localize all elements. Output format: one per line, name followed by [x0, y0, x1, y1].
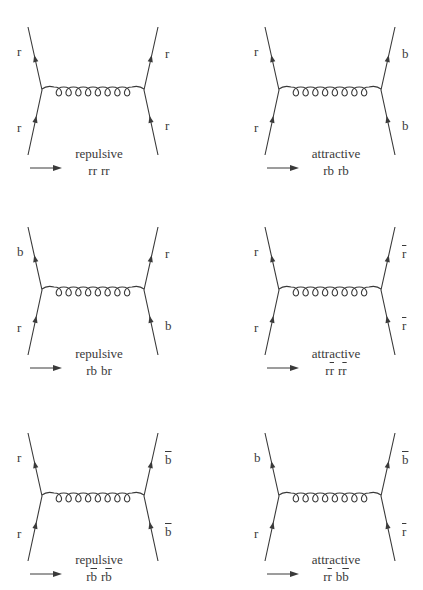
- feynman-diagram-p2: r r b b attractive rb rb: [251, 27, 423, 202]
- reaction-rhs: rb: [338, 164, 349, 178]
- reaction-equation: rr bb: [266, 570, 406, 584]
- right-quark-line: [144, 433, 158, 561]
- interaction-type: repulsive: [29, 347, 169, 361]
- label-bottom-left: r: [17, 527, 21, 540]
- reaction-arrow-icon: [29, 570, 63, 578]
- reaction-equation: rr rr: [29, 164, 169, 178]
- color-charge: r: [105, 163, 109, 178]
- reaction-arrow-icon: [29, 164, 63, 172]
- reaction-lhs: rb: [86, 364, 97, 378]
- feynman-diagram-p6: b r b r attractive rr bb: [251, 433, 423, 590]
- right-quark-line: [381, 433, 395, 561]
- right-quark-line: [381, 227, 395, 355]
- reaction-lhs: rr: [88, 164, 97, 178]
- label-bottom-right: b: [165, 525, 172, 538]
- label-top-left: r: [17, 451, 21, 464]
- label-top-right: b: [165, 453, 172, 466]
- left-quark-line: [265, 433, 279, 561]
- label-top-right: r: [165, 247, 169, 260]
- gluon-line: [279, 86, 381, 96]
- reaction-lhs: rr: [325, 364, 334, 378]
- arrowheads: [32, 55, 153, 123]
- reaction-arrow-icon: [266, 364, 300, 372]
- reaction-arrow-icon: [266, 570, 300, 578]
- left-quark-line: [265, 27, 279, 155]
- arrowheads: [269, 255, 390, 323]
- color-charge: b: [342, 163, 349, 178]
- reaction-lhs: rr: [323, 570, 332, 584]
- feynman-diagram-p5: r r b b repulsive rb rb: [14, 433, 214, 590]
- reaction-equation: rb br: [29, 364, 169, 378]
- label-top-left: b: [17, 245, 24, 258]
- reaction-rhs: rr: [338, 364, 347, 378]
- interaction-type: attractive: [266, 147, 406, 161]
- label-top-right: r: [165, 47, 169, 60]
- label-bottom-left: r: [17, 121, 21, 134]
- right-quark-line: [381, 27, 395, 155]
- reaction-rhs: br: [101, 364, 112, 378]
- label-bottom-right: b: [402, 119, 409, 132]
- arrowheads: [269, 55, 390, 123]
- gluon-line: [279, 286, 381, 296]
- label-top-right: b: [402, 453, 409, 466]
- left-quark-line: [28, 433, 42, 561]
- label-bottom-left: r: [254, 527, 258, 540]
- reaction-lhs: rb: [323, 164, 334, 178]
- reaction-equation: rb rb: [29, 570, 169, 584]
- reaction-rhs: rr: [101, 164, 110, 178]
- arrowheads: [32, 255, 153, 323]
- label-bottom-right: r: [165, 119, 169, 132]
- left-quark-line: [28, 227, 42, 355]
- color-charge: b: [91, 363, 98, 378]
- color-charge: b: [105, 569, 112, 584]
- interaction-type: attractive: [266, 347, 406, 361]
- color-charge: r: [93, 163, 97, 178]
- reaction-equation: rb rb: [266, 164, 406, 178]
- gluon-line: [42, 86, 144, 96]
- feynman-diagram-p1: r r r r repulsive rr rr: [14, 27, 214, 202]
- arrowheads: [32, 461, 153, 529]
- gluon-line: [279, 492, 381, 502]
- interaction-type: repulsive: [29, 553, 169, 567]
- interaction-type: attractive: [266, 553, 406, 567]
- feynman-diagram-p4: r r r r attractive rr rr: [251, 227, 423, 402]
- label-bottom-left: r: [254, 121, 258, 134]
- label-top-left: r: [17, 45, 21, 58]
- feynman-diagram-p3: b r r b repulsive rb br: [14, 227, 214, 402]
- left-quark-line: [28, 27, 42, 155]
- right-quark-line: [144, 227, 158, 355]
- reaction-rhs: bb: [336, 570, 349, 584]
- feynman-diagram-grid: r r r r repulsive rr rr: [0, 0, 423, 590]
- label-bottom-right: b: [165, 319, 172, 332]
- label-bottom-left: r: [254, 321, 258, 334]
- reaction-equation: rr rr: [266, 364, 406, 378]
- interaction-type: repulsive: [29, 147, 169, 161]
- label-bottom-right: r: [402, 525, 406, 538]
- color-charge: r: [342, 363, 346, 378]
- reaction-arrow-icon: [29, 364, 63, 372]
- label-top-left: b: [254, 451, 261, 464]
- color-charge: r: [330, 363, 334, 378]
- color-charge: b: [91, 569, 98, 584]
- label-top-right: r: [402, 247, 406, 260]
- label-top-left: r: [254, 245, 258, 258]
- color-charge: b: [342, 569, 349, 584]
- gluon-line: [42, 286, 144, 296]
- label-bottom-left: r: [17, 321, 21, 334]
- reaction-lhs: rb: [86, 570, 97, 584]
- reaction-rhs: rb: [101, 570, 112, 584]
- color-charge: r: [328, 569, 332, 584]
- label-top-right: b: [402, 47, 409, 60]
- reaction-arrow-icon: [266, 164, 300, 172]
- label-bottom-right: r: [402, 319, 406, 332]
- right-quark-line: [144, 27, 158, 155]
- color-charge: r: [108, 363, 112, 378]
- color-charge: b: [328, 163, 335, 178]
- label-top-left: r: [254, 45, 258, 58]
- arrowheads: [269, 461, 390, 529]
- left-quark-line: [265, 227, 279, 355]
- gluon-line: [42, 492, 144, 502]
